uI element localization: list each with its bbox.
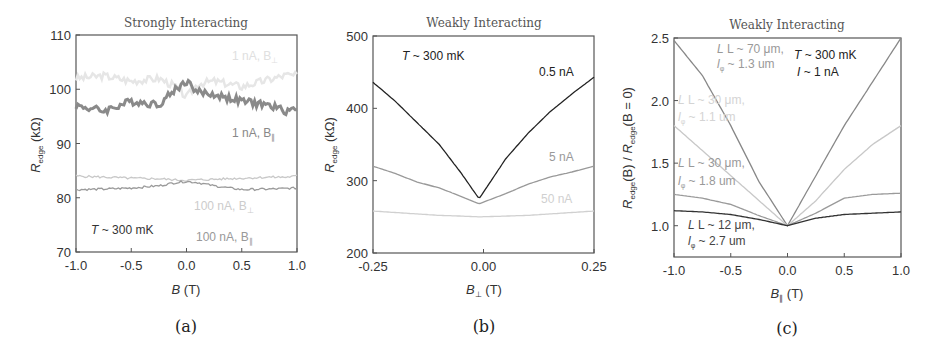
x-tick-label: 0.5: [835, 263, 853, 278]
series-line: [76, 81, 297, 115]
y-tick-label: 70: [57, 245, 71, 260]
panel-a-title: Strongly Interacting: [124, 16, 248, 30]
x-tick-label: -0.5: [120, 258, 142, 273]
y-tick-label: 1.0: [651, 219, 669, 234]
label-5nA: 5 nA: [549, 150, 574, 164]
y-tick-label: 2.5: [651, 31, 669, 46]
y-tick-label: 300: [346, 174, 368, 189]
series-line: [373, 77, 594, 197]
x-tick-label: 0.25: [581, 259, 606, 274]
x-tick-label: -0.5: [720, 263, 742, 278]
label-lphi-1.3: lφ ~ 1.3 um: [717, 57, 775, 73]
label-L30-b: L L ~ 30 μm,: [678, 156, 745, 170]
label-50nA: 50 nA: [541, 192, 572, 206]
label-lphi-1.1: lφ ~ 1.1 um: [678, 110, 736, 126]
temperature-annotation-c: T ~ 300 mK: [794, 48, 856, 62]
panel-a-xlabel: B (T): [172, 282, 201, 297]
series-line: [373, 211, 594, 217]
label-lphi-1.8: lφ ~ 1.8 um: [678, 174, 736, 190]
panel-b: Weakly Interacting -0.250.000.2520030040…: [322, 16, 607, 336]
temperature-annotation-a: T ~ 300 mK: [91, 223, 153, 237]
panel-a-ticks: -1.0-0.50.00.51.0708090100110: [49, 28, 306, 273]
panel-b-ylabel: Redge (kΩ): [322, 117, 339, 173]
y-tick-label: 110: [50, 28, 71, 43]
x-tick-label: 0.0: [177, 258, 195, 273]
x-tick-label: 0.5: [233, 258, 251, 273]
x-tick-label: 0.00: [471, 259, 496, 274]
y-tick-label: 1.5: [651, 156, 669, 171]
label-L30-a: L L ~ 30 μm,: [678, 93, 745, 107]
label-1nA-perp: 1 nA, B⊥: [232, 49, 278, 65]
label-L12: L L ~ 12 μm,: [688, 218, 755, 232]
temperature-annotation-b: T ~ 300 mK: [402, 49, 464, 63]
panel-c-caption: (c): [776, 319, 797, 338]
svg-text:Redge (kΩ): Redge (kΩ): [322, 117, 339, 173]
panel-a-ylabel: Redge (kΩ): [28, 117, 45, 173]
y-tick-label: 100: [49, 82, 71, 97]
panel-b-xlabel: B⊥ (T): [466, 282, 502, 299]
x-tick-label: 0.0: [778, 263, 796, 278]
series-line: [674, 38, 901, 226]
panel-a-caption: (a): [175, 317, 197, 336]
panel-c-xlabel: B∥ (T): [771, 286, 804, 303]
series-line: [76, 181, 297, 191]
series-line: [76, 175, 297, 181]
panel-a: Strongly Interacting -1.0-0.50.00.51.070…: [28, 16, 306, 336]
y-tick-label: 80: [57, 191, 71, 206]
panel-b-title: Weakly Interacting: [426, 16, 542, 30]
label-100nA-par: 100 nA, B∥: [196, 230, 253, 246]
x-tick-label: -1.0: [65, 258, 87, 273]
y-tick-label: 90: [57, 137, 71, 152]
panel-c: Weakly Interacting -1.0-0.50.00.51.01.01…: [620, 18, 910, 338]
panel-a-plot-frame: [76, 35, 297, 252]
label-100nA-perp: 100 nA, B⊥: [194, 199, 254, 215]
y-tick-label: 500: [346, 29, 368, 44]
label-lphi-2.7: lφ ~ 2.7 um: [688, 234, 746, 250]
y-tick-label: 200: [346, 246, 368, 261]
panel-c-curves: [674, 38, 901, 226]
label-1nA-par: 1 nA, B∥: [232, 126, 275, 142]
figure: Strongly Interacting -1.0-0.50.00.51.070…: [0, 0, 925, 354]
svg-text:Redge (kΩ): Redge (kΩ): [28, 117, 45, 173]
x-tick-label: -0.25: [358, 259, 388, 274]
x-tick-label: -1.0: [663, 263, 685, 278]
label-0.5nA: 0.5 nA: [539, 65, 574, 79]
svg-text:Redge(B) / Redge(B = 0): Redge(B) / Redge(B = 0): [620, 87, 637, 209]
panel-b-caption: (b): [473, 317, 496, 336]
panel-c-ylabel: Redge(B) / Redge(B = 0): [620, 87, 637, 209]
current-annotation-c: I ~ 1 nA: [797, 65, 839, 79]
label-L70: L L ~ 70 μm,: [717, 42, 784, 56]
panel-c-title: Weakly Interacting: [729, 18, 845, 32]
x-tick-label: 1.0: [892, 263, 910, 278]
y-tick-label: 400: [346, 101, 368, 116]
y-tick-label: 2.0: [651, 94, 669, 109]
x-tick-label: 1.0: [288, 258, 306, 273]
